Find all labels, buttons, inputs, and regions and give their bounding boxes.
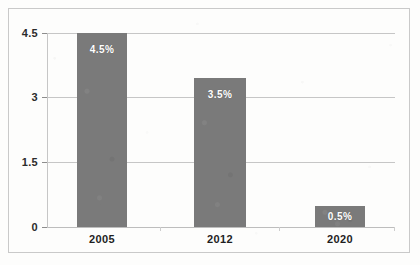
y-tick-mark-3: [42, 97, 47, 98]
y-tick-mark-1-5: [42, 162, 47, 163]
bar-value-label-2020: 0.5%: [315, 211, 365, 222]
y-axis-line: [47, 33, 48, 228]
bar-2005[interactable]: [77, 33, 127, 227]
y-tick-label-1-5: 1.5: [22, 157, 38, 168]
plot-area: 4.5 3 1.5 0 4.5% 3.5% 0.5% 2005 2012 202…: [0, 0, 420, 265]
y-tick-mark-0: [42, 227, 47, 228]
bar-value-label-2005: 4.5%: [77, 44, 127, 55]
gridline-zero-baseline: [47, 227, 395, 228]
x-tick-mark-2: [279, 227, 280, 231]
x-tick-mark-3: [394, 227, 395, 231]
x-tick-label-2020: 2020: [310, 233, 370, 245]
y-tick-mark-4-5: [42, 33, 47, 34]
y-tick-label-0: 0: [32, 222, 38, 233]
bar-2012[interactable]: [194, 78, 246, 227]
y-tick-label-4-5: 4.5: [22, 28, 38, 39]
x-tick-label-2012: 2012: [190, 233, 250, 245]
x-tick-mark-1: [160, 227, 161, 231]
y-tick-label-3: 3: [32, 92, 38, 103]
bar-chart-figure: 4.5 3 1.5 0 4.5% 3.5% 0.5% 2005 2012 202…: [0, 0, 420, 265]
x-tick-label-2005: 2005: [72, 233, 132, 245]
bar-value-label-2012: 3.5%: [194, 89, 246, 100]
